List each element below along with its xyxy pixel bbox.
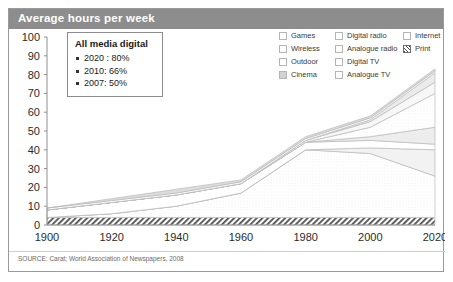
x-axis-tick-label: 1900 <box>35 231 59 243</box>
y-axis-tick-label: 60 <box>28 106 40 118</box>
legend-spacer <box>403 68 447 81</box>
legend-item-wireless[interactable]: Wireless <box>279 42 335 55</box>
source-note: SOURCE: Carat; World Association of News… <box>18 255 184 262</box>
x-axis-tick-label: 2000 <box>358 231 382 243</box>
legend-item-analogue-radio[interactable]: Analogue radio <box>335 42 403 55</box>
x-axis-tick-label: 1920 <box>99 231 123 243</box>
legend-swatch-icon <box>403 45 411 53</box>
legend-swatch-icon <box>335 58 343 66</box>
callout-box: All media digital 2020 : 80% 2010: 66% 2… <box>67 32 163 97</box>
y-axis-tick-label: 80 <box>28 69 40 81</box>
legend-row: GamesDigital radioInternet <box>279 29 447 42</box>
y-axis-tick-label: 0 <box>34 219 40 231</box>
legend-label: Digital TV <box>347 57 379 66</box>
legend-row: OutdoorDigital TV <box>279 55 447 68</box>
chart-card: Average hours per week 01020304050607080… <box>8 8 444 272</box>
legend-label: Cinema <box>291 70 317 79</box>
legend-swatch-icon <box>335 32 343 40</box>
x-axis-tick-label: 1960 <box>229 231 253 243</box>
legend-label: Digital radio <box>347 31 387 40</box>
y-axis-tick-label: 70 <box>28 87 40 99</box>
legend-spacer <box>403 55 447 68</box>
legend-item-cinema[interactable]: Cinema <box>279 68 335 81</box>
legend-label: Analogue TV <box>347 70 390 79</box>
legend-swatch-icon <box>279 58 287 66</box>
legend-swatch-icon <box>279 32 287 40</box>
y-axis-tick-label: 30 <box>28 163 40 175</box>
legend-label: Wireless <box>291 44 320 53</box>
legend-item-analogue-tv[interactable]: Analogue TV <box>335 68 403 81</box>
list-item: 2007: 50% <box>75 77 155 90</box>
callout-title: All media digital <box>75 38 155 49</box>
x-axis-tick-label: 1940 <box>164 231 188 243</box>
area-band-print <box>47 217 435 225</box>
legend-label: Internet <box>415 31 440 40</box>
y-axis-tick-label: 90 <box>28 50 40 62</box>
legend-swatch-icon <box>403 32 411 40</box>
legend-label: Analogue radio <box>347 44 397 53</box>
legend-label: Games <box>291 31 315 40</box>
divider <box>9 251 445 252</box>
legend-item-internet[interactable]: Internet <box>403 29 447 42</box>
legend-row: WirelessAnalogue radioPrint <box>279 42 447 55</box>
y-axis-tick-label: 20 <box>28 181 40 193</box>
y-axis-tick-label: 10 <box>28 200 40 212</box>
list-item: 2020 : 80% <box>75 52 155 65</box>
y-axis-tick-label: 100 <box>22 31 40 43</box>
y-axis-tick-label: 50 <box>28 125 40 137</box>
legend-item-outdoor[interactable]: Outdoor <box>279 55 335 68</box>
chart-legend: GamesDigital radioInternetWirelessAnalog… <box>279 29 447 81</box>
legend-swatch-icon <box>279 71 287 79</box>
page-title: Average hours per week <box>18 12 155 24</box>
legend-item-print[interactable]: Print <box>403 42 447 55</box>
legend-label: Outdoor <box>291 57 318 66</box>
legend-row: CinemaAnalogue TV <box>279 68 447 81</box>
x-axis-tick-label: 1980 <box>293 231 317 243</box>
legend-item-games[interactable]: Games <box>279 29 335 42</box>
callout-list: 2020 : 80% 2010: 66% 2007: 50% <box>75 52 155 90</box>
y-axis-tick-label: 40 <box>28 144 40 156</box>
legend-swatch-icon <box>335 71 343 79</box>
legend-swatch-icon <box>335 45 343 53</box>
list-item: 2010: 66% <box>75 65 155 78</box>
legend-item-digital-tv[interactable]: Digital TV <box>335 55 403 68</box>
legend-item-digital-radio[interactable]: Digital radio <box>335 29 403 42</box>
x-axis-tick-label: 2020 <box>423 231 445 243</box>
legend-label: Print <box>415 44 430 53</box>
legend-swatch-icon <box>279 45 287 53</box>
card-title-bar: Average hours per week <box>9 9 443 29</box>
